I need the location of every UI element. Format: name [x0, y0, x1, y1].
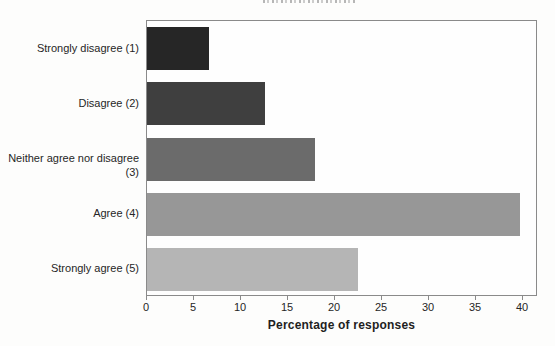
bar-4 — [147, 193, 520, 236]
x-tick-label-20: 20 — [328, 301, 340, 313]
plot-area — [146, 20, 537, 296]
category-label-1: Strongly disagree (1) — [0, 41, 139, 55]
x-tick-mark-10 — [240, 296, 241, 300]
x-tick-label-40: 40 — [516, 301, 528, 313]
x-axis-title: Percentage of responses — [146, 318, 537, 332]
x-tick-mark-15 — [287, 296, 288, 300]
x-tick-mark-5 — [193, 296, 194, 300]
x-tick-label-15: 15 — [281, 301, 293, 313]
x-tick-mark-25 — [381, 296, 382, 300]
x-tick-mark-0 — [146, 296, 147, 300]
x-tick-label-25: 25 — [375, 301, 387, 313]
category-label-4: Agree (4) — [0, 206, 139, 220]
bar-5 — [147, 248, 358, 291]
category-label-3: Neither agree nor disagree (3) — [0, 151, 139, 179]
category-label-2: Disagree (2) — [0, 96, 139, 110]
x-tick-label-30: 30 — [422, 301, 434, 313]
bar-chart-figure: Strongly disagree (1)Disagree (2)Neither… — [0, 0, 555, 346]
x-tick-label-35: 35 — [469, 301, 481, 313]
x-tick-mark-20 — [334, 296, 335, 300]
clipped-title-remnant — [263, 0, 355, 3]
x-tick-label-10: 10 — [234, 301, 246, 313]
bar-1 — [147, 27, 209, 70]
bar-3 — [147, 138, 315, 181]
x-tick-label-0: 0 — [143, 301, 149, 313]
x-tick-mark-35 — [475, 296, 476, 300]
category-label-5: Strongly agree (5) — [0, 261, 139, 275]
x-tick-mark-30 — [428, 296, 429, 300]
bar-2 — [147, 82, 265, 125]
x-tick-label-5: 5 — [190, 301, 196, 313]
x-tick-mark-40 — [522, 296, 523, 300]
